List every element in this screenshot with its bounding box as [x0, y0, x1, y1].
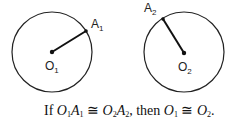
caption: If O1A1 ≅ O2A2, then O1 ≅ O2.	[44, 102, 215, 119]
point-a1	[84, 29, 88, 33]
radius-o1a1	[52, 31, 86, 52]
center-point-o1	[50, 50, 54, 54]
radius-o2a2	[163, 19, 184, 53]
label-a2: A2	[144, 1, 157, 17]
point-a2	[161, 17, 165, 21]
label-o2: O2	[178, 60, 192, 76]
label-a1: A1	[91, 17, 104, 33]
center-point-o2	[182, 51, 186, 55]
label-o1: O1	[45, 59, 59, 75]
